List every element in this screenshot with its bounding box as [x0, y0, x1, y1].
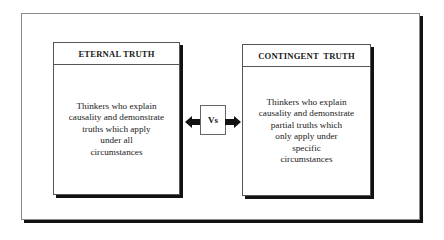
- contingent-truth-description: Thinkers who explain causality and demon…: [243, 67, 370, 195]
- description-line: only apply under: [259, 131, 354, 143]
- arrow-right-icon: [225, 116, 241, 128]
- contingent-truth-title: CONTINGENT TRUTH: [243, 45, 370, 67]
- arrow-left-icon: [185, 116, 201, 128]
- description-line: causality and demonstrate: [259, 108, 354, 120]
- eternal-truth-title: ETERNAL TRUTH: [54, 43, 179, 65]
- eternal-truth-description: Thinkers who explain causality and demon…: [54, 65, 179, 194]
- eternal-truth-box: ETERNAL TRUTH Thinkers who explain causa…: [53, 42, 180, 195]
- description-line: partial truths which: [259, 120, 354, 132]
- contingent-truth-box: CONTINGENT TRUTH Thinkers who explain ca…: [242, 44, 371, 196]
- description-line: truths which apply: [69, 124, 164, 136]
- description-line: Thinkers who explain: [69, 101, 164, 113]
- description-line: specific: [259, 143, 354, 155]
- description-line: under all: [69, 135, 164, 147]
- versus-label: Vs: [200, 105, 226, 135]
- description-line: causality and demonstrate: [69, 112, 164, 124]
- description-line: Thinkers who explain: [259, 97, 354, 109]
- description-line: circumstances: [69, 147, 164, 159]
- description-line: circumstances: [259, 154, 354, 166]
